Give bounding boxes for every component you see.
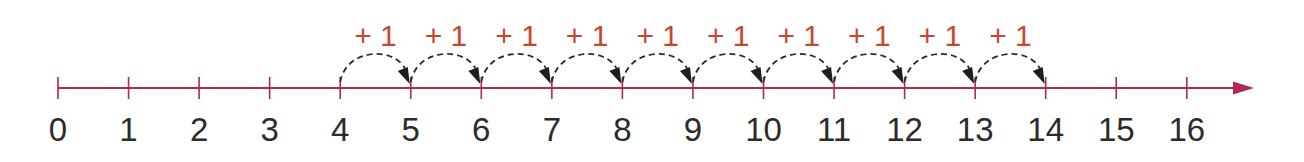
jump-arc (622, 54, 688, 82)
arrowhead-icon (609, 67, 621, 84)
arrowhead-icon (962, 67, 974, 84)
tick-label: 15 (1098, 111, 1135, 148)
arrowhead-icon (539, 67, 551, 84)
jump-arc (764, 54, 830, 82)
jump-arc (905, 54, 971, 82)
jump-arc (693, 54, 759, 82)
tick-labels: 012345678910111213141516 (49, 111, 1205, 148)
jump-arc (834, 54, 900, 82)
jump-arc (340, 54, 406, 82)
tick-label: 13 (957, 111, 994, 148)
tick-label: 2 (190, 111, 208, 148)
tick-label: 10 (745, 111, 782, 148)
arrow-right-icon (1233, 82, 1254, 95)
step-label: + 1 (707, 19, 750, 52)
step-label: + 1 (566, 19, 609, 52)
step-label: + 1 (778, 19, 821, 52)
step-label: + 1 (848, 19, 891, 52)
arrowhead-icon (892, 67, 904, 84)
arrowhead-icon (468, 67, 480, 84)
jump-arc (411, 54, 477, 82)
tick-label: 12 (886, 111, 923, 148)
jump-arc (975, 54, 1041, 82)
step-labels: + 1+ 1+ 1+ 1+ 1+ 1+ 1+ 1+ 1+ 1 (354, 19, 1031, 52)
arrowhead-icon (821, 67, 833, 84)
tick-label: 4 (331, 111, 349, 148)
jump-arc (481, 54, 547, 82)
number-line-axis (58, 82, 1254, 95)
step-label: + 1 (919, 19, 962, 52)
tick-label: 5 (402, 111, 420, 148)
step-label: + 1 (495, 19, 538, 52)
tick-label: 0 (49, 111, 67, 148)
arrowhead-icon (680, 67, 692, 84)
arrowhead-icon (751, 67, 763, 84)
number-line-diagram: 012345678910111213141516 + 1+ 1+ 1+ 1+ 1… (0, 0, 1304, 162)
tick-label: 8 (613, 111, 631, 148)
step-label: + 1 (989, 19, 1032, 52)
tick-label: 14 (1027, 111, 1064, 148)
tick-label: 7 (543, 111, 561, 148)
step-label: + 1 (425, 19, 468, 52)
step-label: + 1 (636, 19, 679, 52)
tick-label: 3 (260, 111, 278, 148)
tick-label: 16 (1168, 111, 1205, 148)
tick-label: 6 (472, 111, 490, 148)
arrowhead-icon (1033, 67, 1045, 84)
step-label: + 1 (354, 19, 397, 52)
tick-label: 9 (684, 111, 702, 148)
arrowhead-icon (398, 67, 410, 84)
tick-label: 11 (817, 111, 851, 148)
tick-label: 1 (119, 111, 137, 148)
jump-arc (552, 54, 618, 82)
